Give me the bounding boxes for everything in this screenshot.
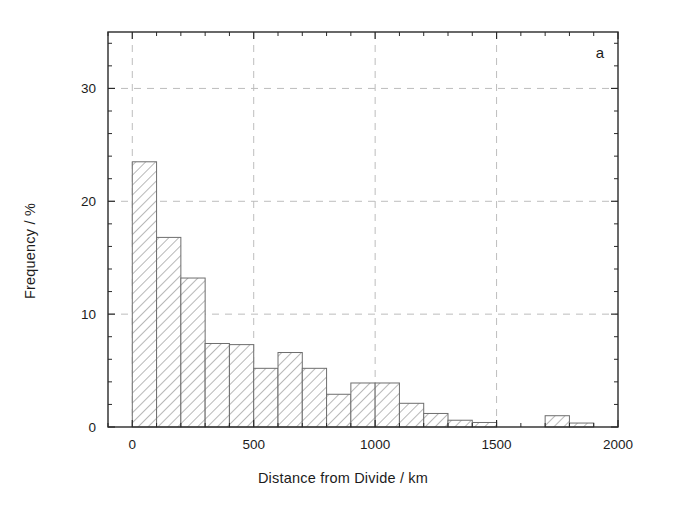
x-tick-label: 1500 xyxy=(482,437,512,452)
histogram-bar xyxy=(351,383,375,427)
histogram-bar xyxy=(375,383,399,427)
figure-panel-a: 05001000150020000102030a Distance from D… xyxy=(0,0,686,519)
y-tick-label: 0 xyxy=(88,420,96,435)
histogram-bar xyxy=(327,394,351,427)
histogram-bar xyxy=(157,237,181,427)
histogram-bar xyxy=(205,343,229,427)
histogram-bar xyxy=(448,420,472,427)
y-tick-label: 20 xyxy=(81,194,96,209)
histogram-bar xyxy=(278,353,302,427)
histogram-bar xyxy=(132,162,156,427)
x-axis-label: Distance from Divide / km xyxy=(0,470,686,486)
histogram-bar xyxy=(181,278,205,427)
histogram-bar xyxy=(399,403,423,427)
y-tick-label: 30 xyxy=(81,81,96,96)
histogram-bar xyxy=(545,416,569,427)
histogram-bar xyxy=(424,413,448,427)
y-tick-label: 10 xyxy=(81,307,96,322)
histogram-bar xyxy=(229,345,253,427)
x-tick-label: 500 xyxy=(242,437,265,452)
histogram-bar xyxy=(302,368,326,427)
x-tick-label: 1000 xyxy=(360,437,390,452)
histogram-plot: 05001000150020000102030a xyxy=(0,0,686,519)
x-tick-label: 2000 xyxy=(603,437,633,452)
y-axis-label: Frequency / % xyxy=(22,161,38,341)
histogram-bar xyxy=(254,368,278,427)
x-tick-label: 0 xyxy=(129,437,137,452)
panel-label: a xyxy=(596,44,605,61)
